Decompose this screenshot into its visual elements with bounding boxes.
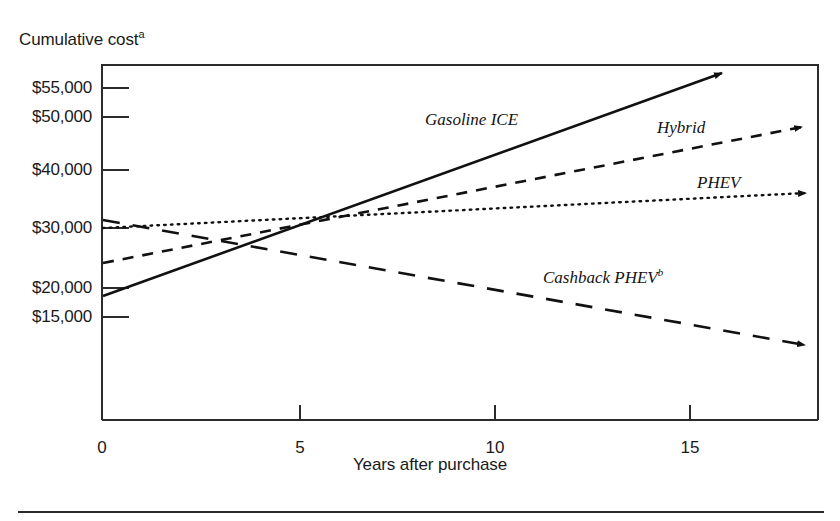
series-line-phev <box>103 193 806 228</box>
series-line-cashback-phev <box>103 220 805 345</box>
series-line-hybrid <box>103 127 802 263</box>
series-line-gasoline-ice <box>103 73 722 296</box>
footer-divider <box>18 511 824 513</box>
series-label-hybrid: Hybrid <box>657 118 705 138</box>
chart-figure: Cumulative costa $55,000 $50,000 $40,000… <box>0 0 840 521</box>
series-label-gasoline-ice: Gasoline ICE <box>425 110 518 130</box>
series-label-cashback-phev: Cashback PHEVb <box>543 268 663 288</box>
series-label-cashback-phev-superscript: b <box>658 266 664 278</box>
plot-area <box>0 0 840 521</box>
series-label-cashback-phev-text: Cashback PHEV <box>543 268 658 287</box>
series-label-phev: PHEV <box>697 173 740 193</box>
